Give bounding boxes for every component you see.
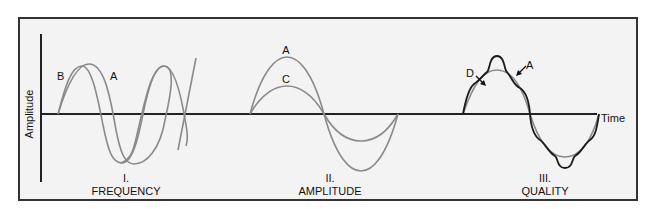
panel-title: FREQUENCY: [91, 185, 161, 197]
panel-title: AMPLITUDE: [299, 185, 362, 197]
panel-title: QUALITY: [521, 185, 569, 197]
wave-diagram: Amplitude Time B A I. FREQUENCY A C II. …: [0, 0, 653, 209]
label-a: A: [526, 59, 534, 71]
panel-quality: D A III. QUALITY: [463, 56, 599, 197]
panel-numeral: III.: [539, 172, 551, 184]
panel-numeral: I.: [123, 172, 129, 184]
panel-numeral: II.: [325, 172, 334, 184]
y-axis-label: Amplitude: [23, 90, 35, 139]
label-c: C: [282, 73, 290, 85]
panel-amplitude: A C II. AMPLITUDE: [250, 44, 398, 197]
panel-frequency: B A I. FREQUENCY: [57, 58, 196, 197]
label-d: D: [466, 67, 474, 79]
x-axis-label: Time: [601, 112, 625, 124]
label-b: B: [57, 70, 64, 82]
label-a: A: [110, 70, 118, 82]
label-a: A: [282, 44, 290, 56]
